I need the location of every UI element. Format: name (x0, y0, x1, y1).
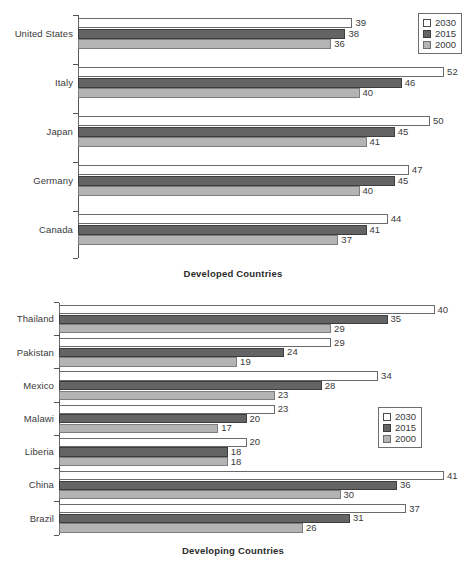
legend-label: 2000 (435, 39, 456, 50)
bar-value-label: 47 (412, 165, 423, 175)
bar-value-label: 20 (250, 414, 261, 424)
developing-countries-chart: Thailand403529Pakistan292419Mexico342823… (0, 290, 466, 579)
bar-value-label: 34 (381, 371, 392, 381)
axis-tick (54, 335, 59, 336)
category-label: Brazil (30, 513, 54, 524)
legend-label: 2015 (395, 422, 416, 433)
bar-value-label: 31 (353, 513, 364, 523)
category-label: Mexico (23, 380, 54, 391)
bar-value-label: 29 (334, 338, 345, 348)
dark-gray-square-icon (383, 424, 391, 432)
category-label: Germany (33, 175, 73, 186)
legend-item-2000[interactable]: 2000 (423, 39, 456, 50)
bar-value-label: 17 (221, 423, 232, 433)
bar-value-label: 45 (398, 127, 409, 137)
developed-countries-chart: United States393836Italy524640Japan50454… (0, 0, 466, 290)
category-label: Japan (47, 126, 73, 137)
category-label: Pakistan (17, 347, 54, 358)
bar-2000 (59, 324, 332, 333)
bar-value-label: 30 (344, 490, 355, 500)
bar-2000 (59, 391, 275, 400)
legend-label: 2000 (395, 433, 416, 444)
axis-title-developing: Developing Countries (0, 545, 466, 556)
bar-2015 (78, 29, 346, 39)
legend-item-2030[interactable]: 2030 (383, 411, 416, 422)
bar-value-label: 40 (438, 305, 449, 315)
category-label: Canada (39, 224, 73, 235)
bar-value-label: 41 (370, 225, 381, 235)
bar-2015 (59, 447, 228, 456)
axis-tick (73, 211, 78, 212)
bar-value-label: 26 (306, 523, 317, 533)
bar-2015 (78, 78, 402, 88)
category-label: Liberia (25, 446, 54, 457)
bar-value-label: 37 (341, 235, 352, 245)
axis-tick (54, 468, 59, 469)
dark-gray-square-icon (423, 30, 431, 38)
axis-tick (73, 162, 78, 163)
legend-item-2030[interactable]: 2030 (423, 17, 456, 28)
bar-value-label: 36 (334, 39, 345, 49)
axis-tick (54, 501, 59, 502)
axis-tick (54, 302, 59, 303)
bar-value-label: 44 (391, 214, 402, 224)
bar-2000 (59, 424, 219, 433)
bar-2030 (78, 214, 388, 224)
axis-tick (54, 535, 59, 536)
axis-title-developed: Developed Countries (0, 268, 466, 279)
bar-2030 (78, 18, 353, 28)
axis-tick (73, 113, 78, 114)
category-label: United States (15, 28, 73, 39)
bar-value-label: 39 (355, 18, 366, 28)
bar-2000 (78, 137, 367, 147)
legend-developing: 203020152000 (378, 407, 422, 448)
axis-tick (73, 64, 78, 65)
bar-2030 (78, 116, 431, 126)
legend-label: 2015 (435, 28, 456, 39)
bar-2030 (78, 165, 409, 175)
bar-2000 (59, 490, 341, 499)
category-label: China (29, 479, 54, 490)
bar-value-label: 18 (231, 457, 242, 467)
bar-value-label: 37 (409, 504, 420, 514)
bar-2015 (59, 414, 247, 423)
axis-tick (54, 435, 59, 436)
bar-value-label: 40 (363, 88, 374, 98)
category-label: Malawi (24, 413, 54, 424)
bar-2030 (59, 305, 435, 314)
bar-value-label: 36 (400, 480, 411, 490)
bar-value-label: 50 (433, 116, 444, 126)
bar-2030 (59, 438, 247, 447)
bar-2000 (78, 39, 332, 49)
bar-2000 (78, 88, 360, 98)
legend-item-2015[interactable]: 2015 (383, 422, 416, 433)
white-square-icon (423, 19, 431, 27)
bar-2030 (59, 405, 275, 414)
bar-value-label: 41 (370, 137, 381, 147)
bar-2000 (78, 235, 339, 245)
bar-value-label: 40 (363, 186, 374, 196)
bar-value-label: 20 (250, 437, 261, 447)
legend-developed: 203020152000 (418, 13, 462, 54)
bar-value-label: 23 (278, 390, 289, 400)
bar-value-label: 24 (287, 347, 298, 357)
bar-value-label: 46 (405, 78, 416, 88)
white-square-icon (383, 413, 391, 421)
bar-value-label: 52 (447, 67, 458, 77)
light-gray-square-icon (383, 435, 391, 443)
bar-2030 (78, 67, 445, 77)
bar-2000 (59, 357, 238, 366)
legend-label: 2030 (395, 411, 416, 422)
category-label: Thailand (17, 313, 54, 324)
axis-tick (54, 368, 59, 369)
light-gray-square-icon (423, 41, 431, 49)
legend-item-2000[interactable]: 2000 (383, 433, 416, 444)
bar-value-label: 41 (447, 471, 458, 481)
bar-value-label: 28 (325, 381, 336, 391)
bar-value-label: 38 (348, 29, 359, 39)
legend-item-2015[interactable]: 2015 (423, 28, 456, 39)
bar-2000 (59, 523, 303, 532)
bar-value-label: 19 (240, 357, 251, 367)
bar-value-label: 35 (391, 314, 402, 324)
bar-2015 (78, 127, 395, 137)
